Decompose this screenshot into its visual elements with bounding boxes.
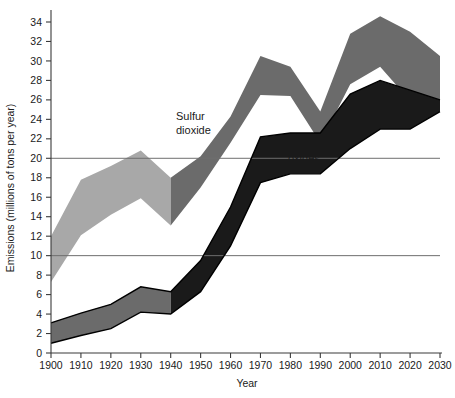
x-tick-label-2000: 2000 xyxy=(339,359,363,371)
x-axis-title: Year xyxy=(236,377,258,389)
y-tick-label-6: 6 xyxy=(36,288,42,300)
x-tick-label-1940: 1940 xyxy=(159,359,183,371)
x-tick-label-1970: 1970 xyxy=(249,359,273,371)
x-tick-label-1960: 1960 xyxy=(219,359,243,371)
chart-canvas: 0246810121416182022242628303234190019101… xyxy=(0,0,455,398)
y-tick-label-4: 4 xyxy=(36,308,42,320)
x-tick-label-2020: 2020 xyxy=(398,359,422,371)
y-tick-label-32: 32 xyxy=(30,35,42,47)
x-tick-label-1980: 1980 xyxy=(279,359,303,371)
y-tick-label-34: 34 xyxy=(30,16,42,28)
y-tick-label-14: 14 xyxy=(30,210,42,222)
y-tick-label-18: 18 xyxy=(30,171,42,183)
y-tick-label-26: 26 xyxy=(30,93,42,105)
y-tick-label-22: 22 xyxy=(30,132,42,144)
emissions-chart: 0246810121416182022242628303234190019101… xyxy=(0,0,455,398)
y-tick-label-20: 20 xyxy=(30,152,42,164)
x-tick-label-1990: 1990 xyxy=(309,359,333,371)
x-tick-label-2030: 2030 xyxy=(428,359,452,371)
x-tick-label-1900: 1900 xyxy=(39,359,63,371)
y-tick-label-10: 10 xyxy=(30,249,42,261)
x-tick-label-1930: 1930 xyxy=(129,359,153,371)
y-tick-label-12: 12 xyxy=(30,230,42,242)
y-tick-label-8: 8 xyxy=(36,269,42,281)
nitrogen-oxides-label-line1: Nitrogen xyxy=(288,138,330,150)
y-tick-label-2: 2 xyxy=(36,327,42,339)
sulfur-dioxide-label-line1: Sulfur xyxy=(176,110,205,122)
x-tick-label-1950: 1950 xyxy=(189,359,213,371)
y-tick-label-30: 30 xyxy=(30,55,42,67)
y-axis-title: Emissions (millions of tons per year) xyxy=(4,104,16,273)
x-tick-label-2010: 2010 xyxy=(368,359,392,371)
y-tick-label-0: 0 xyxy=(36,347,42,359)
y-tick-label-24: 24 xyxy=(30,113,42,125)
nitrogen-oxides-label-line2: oxides xyxy=(288,152,320,164)
sulfur-dioxide-label-line2: dioxide xyxy=(176,124,211,136)
y-tick-label-16: 16 xyxy=(30,191,42,203)
y-tick-label-28: 28 xyxy=(30,74,42,86)
x-tick-label-1910: 1910 xyxy=(69,359,93,371)
x-tick-label-1920: 1920 xyxy=(99,359,123,371)
